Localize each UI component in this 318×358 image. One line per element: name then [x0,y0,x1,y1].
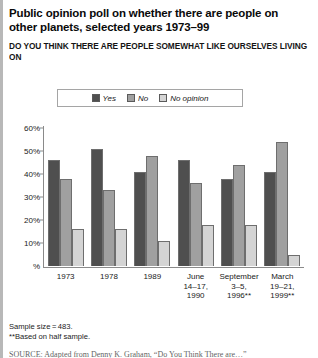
legend-item-no-opinion[interactable]: No opinion [159,94,208,103]
bar-no-opinion[interactable] [245,225,257,266]
legend-swatch-icon [159,94,167,102]
bar-yes[interactable] [134,172,146,266]
bar-group [134,128,170,266]
chart-figure: Public opinion poll on whether there are… [0,0,318,358]
source-note: SOURCE: Adapted from Denny K. Graham, “D… [9,350,309,358]
bar-no-opinion[interactable] [158,241,170,266]
legend-label: No [138,94,148,103]
bar-set [264,128,300,266]
legend-label: No opinion [170,94,208,103]
y-axis-tick-mark [40,197,44,198]
note-half-sample: **Based on half sample. [9,332,90,342]
bar-set [91,128,127,266]
bar-yes[interactable] [91,149,103,266]
page-edge [0,0,3,358]
bar-group [264,128,300,266]
bar-no-opinion[interactable] [288,255,300,267]
chart-subtitle: DO YOU THINK THERE ARE PEOPLE SOMEWHAT L… [9,41,311,62]
legend-label: Yes [103,94,116,103]
y-axis-tick-mark [40,243,44,244]
x-axis-line [43,267,304,268]
bar-no-opinion[interactable] [72,229,84,266]
bar-group [221,128,257,266]
bar-no[interactable] [60,179,72,266]
bar-set [134,128,170,266]
legend-swatch-icon [127,94,135,102]
y-axis-tick-mark [40,128,44,129]
bar-no-opinion[interactable] [202,225,214,266]
bar-no[interactable] [233,165,245,266]
bar-set [178,128,214,266]
bar-group [178,128,214,266]
chart-legend: YesNoNo opinion [57,89,243,107]
note-sample-size: Sample size = 483. [9,322,90,332]
bar-yes[interactable] [221,179,233,266]
y-axis-tick-mark [40,151,44,152]
plot-area: %10%20%30%40%50%60% [44,128,304,266]
footnotes: Sample size = 483. **Based on half sampl… [9,322,90,341]
bar-group [48,128,84,266]
legend-swatch-icon [92,94,100,102]
chart-subtitle-line1: DO YOU THINK THERE ARE PEOPLE SOMEWHAT L… [9,41,307,62]
bar-yes[interactable] [264,172,276,266]
bar-no-opinion[interactable] [115,229,127,266]
bar-yes[interactable] [48,160,60,266]
bar-no[interactable] [190,183,202,266]
chart-title: Public opinion poll on whether there are… [9,7,309,34]
y-axis-tick-mark [40,220,44,221]
legend-item-yes[interactable]: Yes [92,94,116,103]
bar-no[interactable] [103,190,115,266]
y-axis-tick-label: % [33,262,44,271]
bar-no[interactable] [146,156,158,266]
bar-no[interactable] [276,142,288,266]
bar-yes[interactable] [178,160,190,266]
bar-set [221,128,257,266]
bar-set [48,128,84,266]
x-axis-label: March 19–21, 1999** [248,272,316,301]
legend-item-no[interactable]: No [127,94,148,103]
bar-group [91,128,127,266]
y-axis-tick-mark [40,174,44,175]
